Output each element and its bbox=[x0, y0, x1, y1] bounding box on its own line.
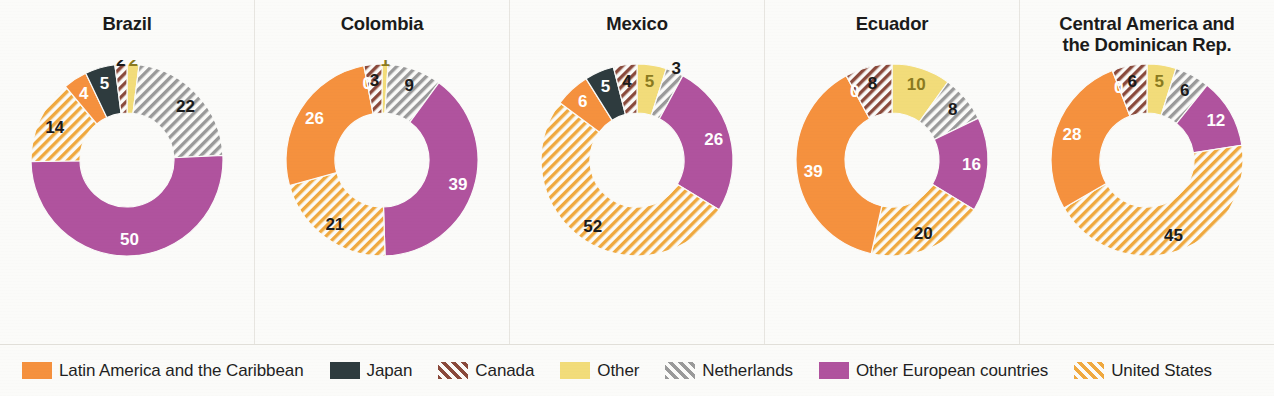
legend-swatch bbox=[819, 362, 849, 379]
slice-value-label: 39 bbox=[448, 175, 467, 194]
slice-value-label: 5 bbox=[100, 74, 109, 93]
donut-chart: 5612452806 bbox=[1047, 60, 1247, 260]
legend-label: Netherlands bbox=[702, 361, 793, 381]
slice-value-label: 14 bbox=[45, 118, 64, 137]
slice-value-label: 16 bbox=[962, 155, 981, 174]
slice-value-label: 2 bbox=[129, 60, 138, 70]
slice-value-label: 39 bbox=[804, 162, 823, 181]
legend-swatch bbox=[438, 362, 468, 379]
panel-title: Ecuador bbox=[765, 13, 1019, 34]
legend-label: Canada bbox=[475, 361, 534, 381]
legend-label: Japan bbox=[367, 361, 413, 381]
slice-value-label: 21 bbox=[325, 215, 344, 234]
slice-value-label: 1 bbox=[380, 60, 389, 70]
donut-panels-row: Brazil2225014452Colombia1939212603Mexico… bbox=[0, 0, 1274, 344]
legend-label: Latin America and the Caribbean bbox=[59, 361, 304, 381]
donut-panel-brazil: Brazil2225014452 bbox=[0, 0, 255, 344]
legend-item[interactable]: Netherlands bbox=[665, 361, 793, 381]
chart-legend: Latin America and the CaribbeanJapanCana… bbox=[0, 345, 1274, 396]
legend-item[interactable]: Canada bbox=[438, 361, 534, 381]
slice-value-label: 45 bbox=[1164, 226, 1183, 245]
slice-value-label: 0 bbox=[850, 82, 859, 101]
slice-value-label: 4 bbox=[79, 84, 89, 103]
legend-item[interactable]: Latin America and the Caribbean bbox=[22, 361, 304, 381]
donut-panel-mexico: Mexico532652654 bbox=[510, 0, 765, 344]
legend-label: United States bbox=[1111, 361, 1212, 381]
slice-value-label: 5 bbox=[601, 77, 610, 96]
slice-value-label: 10 bbox=[907, 75, 926, 94]
slice-value-label: 8 bbox=[868, 74, 877, 93]
panel-title: Mexico bbox=[510, 13, 764, 34]
slice-value-label: 4 bbox=[622, 72, 632, 91]
legend-label: Other bbox=[597, 361, 639, 381]
donut-panel-colombia: Colombia1939212603 bbox=[255, 0, 510, 344]
legend-item[interactable]: Japan bbox=[330, 361, 413, 381]
slice-value-label: 0 bbox=[1114, 78, 1123, 97]
legend-item[interactable]: Other bbox=[560, 361, 639, 381]
slice-value-label: 26 bbox=[704, 130, 723, 149]
legend-swatch bbox=[330, 362, 360, 379]
slice-value-label: 22 bbox=[176, 97, 195, 116]
donut-chart: 10816203908 bbox=[792, 60, 992, 260]
slice-value-label: 28 bbox=[1063, 125, 1082, 144]
slice-value-label: 3 bbox=[370, 71, 379, 90]
slice-value-label: 2 bbox=[116, 60, 125, 70]
slice-value-label: 3 bbox=[672, 60, 681, 78]
slice-value-label: 52 bbox=[583, 217, 602, 236]
slice-value-label: 50 bbox=[120, 230, 139, 249]
legend-swatch bbox=[560, 362, 590, 379]
legend-swatch bbox=[1074, 362, 1104, 379]
legend-item[interactable]: United States bbox=[1074, 361, 1212, 381]
donut-panel-central-america-and-the-dominican-rep: Central America and the Dominican Rep.56… bbox=[1020, 0, 1274, 344]
panel-title: Central America and the Dominican Rep. bbox=[1020, 13, 1274, 55]
slice-value-label: 5 bbox=[1155, 72, 1164, 91]
donut-chart: 1939212603 bbox=[282, 60, 482, 260]
slice-value-label: 12 bbox=[1206, 111, 1225, 130]
slice-value-label: 26 bbox=[305, 109, 324, 128]
legend-swatch bbox=[665, 362, 695, 379]
legend-swatch bbox=[22, 362, 52, 379]
donut-chart: 2225014452 bbox=[27, 60, 227, 260]
legend-label: Other European countries bbox=[856, 361, 1048, 381]
panel-title: Brazil bbox=[0, 13, 254, 34]
donut-chart: 532652654 bbox=[537, 60, 737, 260]
legend-item[interactable]: Other European countries bbox=[819, 361, 1048, 381]
slice-value-label: 6 bbox=[1128, 72, 1137, 91]
slice-value-label: 5 bbox=[645, 72, 654, 91]
slice-value-label: 8 bbox=[948, 100, 957, 119]
panel-title: Colombia bbox=[255, 13, 509, 34]
slice-value-label: 6 bbox=[1180, 81, 1189, 100]
slice-value-label: 20 bbox=[914, 224, 933, 243]
chart-figure: Brazil2225014452Colombia1939212603Mexico… bbox=[0, 0, 1274, 396]
donut-panel-ecuador: Ecuador10816203908 bbox=[765, 0, 1020, 344]
donut-slice bbox=[286, 66, 373, 186]
slice-value-label: 9 bbox=[404, 76, 413, 95]
slice-value-label: 6 bbox=[578, 92, 587, 111]
